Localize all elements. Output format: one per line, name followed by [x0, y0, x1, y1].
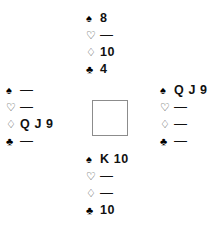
suit-row-west-spade: ♠ — — [6, 82, 54, 99]
east-spade-cards: Q J 9 — [173, 84, 208, 97]
heart-icon: ♡ — [160, 102, 173, 113]
hand-west: ♠ — ♡ — ♢ Q J 9 ♣ — — [6, 82, 54, 150]
suit-row-north-heart: ♡ — — [86, 27, 115, 44]
west-diamond-cards: Q J 9 — [19, 118, 54, 131]
suit-row-south-club: ♣ 10 — [86, 202, 129, 219]
bridge-hand-diagram: ♠ 8 ♡ — ♢ 10 ♣ 4 ♠ — ♡ — ♢ Q J 9 ♣ — [0, 0, 220, 229]
hand-east: ♠ Q J 9 ♡ — ♢ — ♣ — — [160, 82, 208, 150]
diamond-icon: ♢ — [6, 119, 19, 130]
heart-icon: ♡ — [6, 102, 19, 113]
spade-icon: ♠ — [86, 154, 99, 165]
heart-icon: ♡ — [86, 30, 99, 41]
diamond-icon: ♢ — [160, 119, 173, 130]
north-heart-cards: — — [99, 28, 113, 41]
east-heart-cards: — — [173, 100, 187, 113]
diamond-icon: ♢ — [86, 188, 99, 199]
center-square — [92, 100, 128, 136]
suit-row-west-club: ♣ — — [6, 133, 54, 150]
south-heart-cards: — — [99, 169, 113, 182]
suit-row-north-club: ♣ 4 — [86, 61, 115, 78]
south-diamond-cards: — — [99, 186, 113, 199]
hand-north: ♠ 8 ♡ — ♢ 10 ♣ 4 — [86, 10, 115, 78]
spade-icon: ♠ — [160, 85, 173, 96]
spade-icon: ♠ — [86, 13, 99, 24]
west-club-cards: — — [19, 134, 33, 147]
suit-row-east-diamond: ♢ — — [160, 116, 208, 133]
west-heart-cards: — — [19, 100, 33, 113]
spade-icon: ♠ — [6, 85, 19, 96]
suit-row-south-spade: ♠ K 10 — [86, 151, 129, 168]
north-diamond-cards: 10 — [99, 46, 115, 59]
suit-row-east-heart: ♡ — — [160, 99, 208, 116]
suit-row-west-heart: ♡ — — [6, 99, 54, 116]
heart-icon: ♡ — [86, 171, 99, 182]
hand-south: ♠ K 10 ♡ — ♢ — ♣ 10 — [86, 151, 129, 219]
club-icon: ♣ — [86, 64, 99, 75]
suit-row-north-diamond: ♢ 10 — [86, 44, 115, 61]
suit-row-south-heart: ♡ — — [86, 168, 129, 185]
east-diamond-cards: — — [173, 117, 187, 130]
north-club-cards: 4 — [99, 63, 108, 76]
south-spade-cards: K 10 — [99, 153, 129, 166]
suit-row-east-spade: ♠ Q J 9 — [160, 82, 208, 99]
suit-row-south-diamond: ♢ — — [86, 185, 129, 202]
club-icon: ♣ — [160, 136, 173, 147]
west-spade-cards: — — [19, 83, 33, 96]
diamond-icon: ♢ — [86, 47, 99, 58]
south-club-cards: 10 — [99, 204, 115, 217]
north-spade-cards: 8 — [99, 12, 108, 25]
east-club-cards: — — [173, 134, 187, 147]
club-icon: ♣ — [6, 136, 19, 147]
suit-row-north-spade: ♠ 8 — [86, 10, 115, 27]
suit-row-west-diamond: ♢ Q J 9 — [6, 116, 54, 133]
suit-row-east-club: ♣ — — [160, 133, 208, 150]
club-icon: ♣ — [86, 205, 99, 216]
